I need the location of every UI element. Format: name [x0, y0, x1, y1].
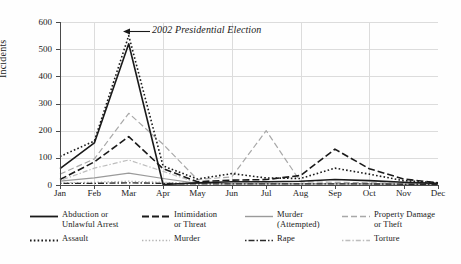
legend-label: Abduction orUnlawful Arrest	[62, 210, 119, 229]
legend-label-line: (Attempted)	[277, 220, 320, 230]
legend-label: Intimidationor Threat	[174, 210, 217, 229]
y-tick-label: 100	[0, 153, 52, 162]
legend-label-line: Torture	[374, 234, 400, 244]
y-tick-label: 400	[0, 72, 52, 81]
legend-label: Torture	[374, 234, 400, 244]
legend-label-line: Unlawful Arrest	[62, 220, 119, 230]
legend-item[interactable]: Torture	[342, 234, 455, 252]
legend-item[interactable]: Intimidationor Threat	[142, 210, 245, 234]
y-tick-label: 600	[0, 18, 52, 27]
election-annotation-label: 2002 Presidential Election	[152, 24, 261, 35]
legend-item[interactable]: Assault	[30, 234, 142, 252]
legend-label-line: or Threat	[174, 220, 217, 230]
legend-item[interactable]: Property Damageor Theft	[342, 210, 455, 234]
legend-line-swatch	[245, 212, 273, 221]
legend-item[interactable]: Murder	[142, 234, 245, 252]
legend-line-swatch	[245, 236, 273, 245]
annotation-arrow-icon	[123, 27, 151, 36]
legend-label-line: Murder	[174, 234, 200, 244]
legend-label: Property Damageor Theft	[374, 210, 435, 229]
y-tick-label: 200	[0, 126, 52, 135]
legend-line-swatch	[142, 212, 170, 221]
chart-legend: Abduction orUnlawful ArrestIntimidationo…	[30, 210, 455, 260]
legend-item[interactable]: Murder(Attempted)	[245, 210, 342, 234]
legend-line-swatch	[342, 212, 370, 221]
legend-label: Assault	[62, 234, 88, 244]
legend-label: Murder	[174, 234, 200, 244]
series-line	[60, 36, 438, 183]
legend-label: Murder(Attempted)	[277, 210, 320, 229]
legend-line-swatch	[30, 236, 58, 245]
legend-label-line: or Theft	[374, 220, 435, 230]
chart-figure: Incidents 0100200300400500600 JanFebMarA…	[0, 0, 461, 264]
plot-area	[60, 22, 438, 185]
legend-label-line: Rape	[277, 234, 295, 244]
legend-label-line: Assault	[62, 234, 88, 244]
series-line	[60, 113, 438, 184]
y-axis-line	[60, 22, 61, 185]
y-tick-label: 500	[0, 45, 52, 54]
legend-item[interactable]: Rape	[245, 234, 342, 252]
legend-label: Rape	[277, 234, 295, 244]
x-axis-line	[60, 185, 438, 186]
y-tick-label-group: 0100200300400500600	[0, 22, 56, 185]
data-series-layer	[60, 22, 438, 185]
legend-line-swatch	[30, 212, 58, 221]
legend-item[interactable]: Abduction orUnlawful Arrest	[30, 210, 142, 234]
legend-line-swatch	[342, 236, 370, 245]
legend-line-swatch	[142, 236, 170, 245]
y-tick-label: 300	[0, 99, 52, 108]
x-tick-label: Dec	[418, 188, 458, 198]
